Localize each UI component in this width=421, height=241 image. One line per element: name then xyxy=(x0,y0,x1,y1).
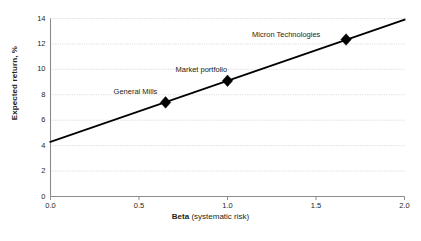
point-label-0: General Mills xyxy=(114,87,158,96)
gridlines-group xyxy=(51,19,405,172)
y-tick-label-10: 10 xyxy=(24,65,46,73)
x-axis-title-rest: (systematic risk) xyxy=(189,212,249,221)
y-tick-label-8: 8 xyxy=(24,91,46,99)
data-marker-0[interactable] xyxy=(160,97,170,109)
x-tick-label-1.5: 1.5 xyxy=(301,202,331,210)
y-tick-label-6: 6 xyxy=(24,116,46,124)
x-axis-title: Beta (systematic risk) xyxy=(0,212,421,221)
point-label-1: Market portfolio xyxy=(176,65,228,74)
axes-group xyxy=(51,19,405,197)
data-marker-1[interactable] xyxy=(222,75,232,87)
chart-container: Expected return, % Beta (systematic risk… xyxy=(0,0,421,241)
y-tick-label-2: 2 xyxy=(24,167,46,175)
y-axis-title: Expected return, % xyxy=(10,0,19,48)
y-tick-label-14: 14 xyxy=(24,15,46,23)
y-tick-label-4: 4 xyxy=(24,142,46,150)
data-marker-2[interactable] xyxy=(341,34,351,46)
y-tick-label-0: 0 xyxy=(24,193,46,201)
x-tick-label-0: 0.0 xyxy=(36,202,66,210)
y-tick-label-12: 12 xyxy=(24,40,46,48)
x-axis-title-bold: Beta xyxy=(172,212,189,221)
point-label-2: Micron Technologies xyxy=(252,30,320,39)
x-tick-label-1: 1.0 xyxy=(213,202,243,210)
x-tick-label-2: 2.0 xyxy=(390,202,420,210)
x-tick-label-0.5: 0.5 xyxy=(124,202,154,210)
y-axis-title-text: Expected return, % xyxy=(10,46,19,166)
